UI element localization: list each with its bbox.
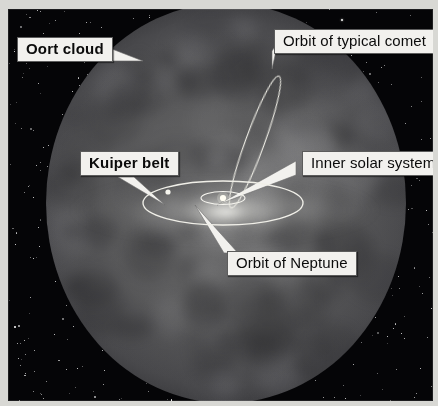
neptune-orbit-tail: [195, 205, 238, 253]
label-oort-cloud: Oort cloud: [17, 37, 113, 62]
sun-halo: [217, 192, 229, 204]
label-neptune-orbit: Orbit of Neptune: [227, 251, 357, 276]
orbit-overlay: [8, 9, 433, 401]
kuiper-belt-tail: [118, 177, 165, 205]
oort-cloud-diagram: Oort cloud Kuiper belt Orbit of typical …: [0, 0, 438, 406]
diagram-plate: Oort cloud Kuiper belt Orbit of typical …: [8, 9, 433, 401]
label-inner-solar-system: Inner solar system: [302, 151, 433, 176]
label-comet-orbit: Orbit of typical comet: [274, 29, 433, 54]
label-kuiper-belt: Kuiper belt: [80, 151, 179, 176]
oort-cloud-tail: [112, 49, 143, 61]
kuiper-belt-object: [165, 189, 170, 194]
